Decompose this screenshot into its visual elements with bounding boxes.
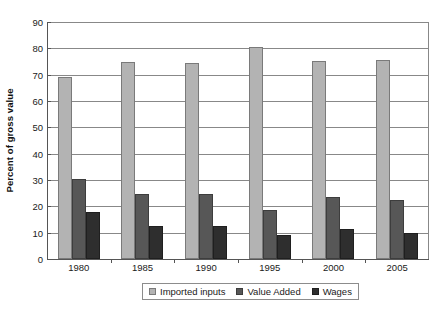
x-tick-mark [302, 259, 303, 263]
y-tick-mark [47, 180, 51, 181]
bar [72, 179, 86, 259]
bar [340, 229, 354, 259]
bar-group [365, 22, 429, 259]
y-axis-tick-labels: 0102030405060708090 [15, 22, 43, 259]
y-tick-label: 20 [17, 201, 43, 212]
y-tick-label: 90 [17, 17, 43, 28]
x-tick-mark [174, 259, 175, 263]
y-tick-mark [47, 75, 51, 76]
bar [390, 200, 404, 259]
legend-swatch-icon [149, 288, 156, 295]
y-tick-mark [47, 259, 51, 260]
y-tick-label: 50 [17, 122, 43, 133]
bar [121, 62, 135, 260]
bar [86, 212, 100, 259]
y-tick-mark [47, 233, 51, 234]
bar [149, 226, 163, 259]
y-tick-label: 60 [17, 96, 43, 107]
bar-group [302, 22, 366, 259]
x-tick-label: 1985 [132, 262, 153, 273]
x-tick-mark [365, 259, 366, 263]
chart-legend: Imported inputsValue AddedWages [142, 283, 359, 300]
bar [58, 77, 72, 259]
x-tick-label: 1980 [68, 262, 89, 273]
figure-caption [8, 307, 428, 315]
y-tick-label: 0 [17, 254, 43, 265]
legend-item[interactable]: Imported inputs [149, 286, 225, 297]
y-tick-label: 40 [17, 148, 43, 159]
bar [199, 194, 213, 259]
bar [185, 63, 199, 259]
x-tick-mark [238, 259, 239, 263]
legend-swatch-icon [236, 288, 243, 295]
legend-item[interactable]: Value Added [236, 286, 300, 297]
y-axis-title-label: Percent of gross value [4, 88, 15, 192]
bar [277, 235, 291, 259]
y-tick-mark [47, 127, 51, 128]
legend-swatch-icon [312, 288, 319, 295]
legend-item[interactable]: Wages [312, 286, 352, 297]
x-tick-label: 2005 [387, 262, 408, 273]
y-tick-mark [47, 101, 51, 102]
bar [376, 60, 390, 259]
x-tick-label: 2000 [323, 262, 344, 273]
bars-layer [47, 22, 429, 259]
y-tick-label: 70 [17, 69, 43, 80]
bar [326, 197, 340, 259]
bar [213, 226, 227, 259]
bar-chart-figure: Percent of gross value 01020304050607080… [0, 0, 439, 315]
y-tick-mark [47, 48, 51, 49]
bar-group [47, 22, 111, 259]
y-tick-label: 30 [17, 175, 43, 186]
bar-group [238, 22, 302, 259]
y-tick-mark [47, 154, 51, 155]
bar [249, 47, 263, 259]
bar-group [111, 22, 175, 259]
y-tick-label: 10 [17, 227, 43, 238]
y-tick-label: 80 [17, 43, 43, 54]
y-tick-mark [47, 22, 51, 23]
y-tick-mark [47, 206, 51, 207]
bar-group [174, 22, 238, 259]
x-axis-tick-labels: 198019851990199520002005 [47, 262, 429, 278]
x-tick-mark [111, 259, 112, 263]
legend-label: Value Added [247, 286, 300, 297]
bar [404, 233, 418, 259]
legend-label: Wages [323, 286, 352, 297]
bar [312, 61, 326, 259]
bar [135, 194, 149, 259]
legend-label: Imported inputs [160, 286, 225, 297]
plot-area [47, 22, 429, 259]
x-tick-label: 1995 [259, 262, 280, 273]
bar [263, 210, 277, 259]
x-tick-label: 1990 [196, 262, 217, 273]
